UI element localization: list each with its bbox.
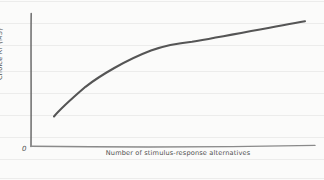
y-axis-title: Choice RT (MS) [0,20,4,140]
x-axis-title: Number of stimulus-response alternatives [16,149,324,157]
x-axis-line [31,145,315,146]
y-axis-title-text: Choice RT (MS) [0,28,4,80]
hand-drawn-chart-figure: 0 Choice RT (MS) Number of stimulus-resp… [0,0,324,180]
data-curve [54,21,305,116]
